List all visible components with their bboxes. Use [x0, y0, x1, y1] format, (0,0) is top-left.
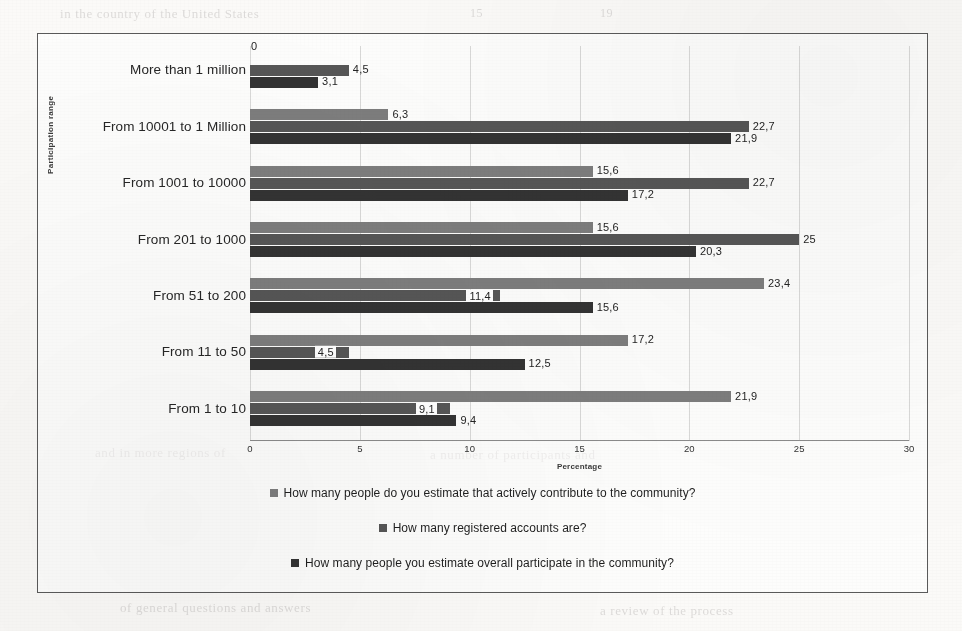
bar[interactable]	[250, 121, 749, 132]
background-ghost-text-1: 15	[470, 6, 483, 21]
bar-value-label: 4,5	[315, 346, 336, 358]
legend-label: How many people you estimate overall par…	[305, 556, 674, 570]
x-axis-ticks: 051015202530	[250, 443, 909, 459]
bar-row[interactable]: 4,5	[250, 65, 909, 76]
bar-value-label: 23,4	[768, 278, 790, 289]
bar[interactable]	[250, 133, 731, 144]
bar-row[interactable]: 12,5	[250, 359, 909, 370]
bar-row[interactable]: 25	[250, 234, 909, 245]
legend-item[interactable]: How many people you estimate overall par…	[38, 556, 927, 570]
background-ghost-text-6: a review of the process	[600, 603, 734, 619]
x-axis-tick-label: 20	[684, 443, 695, 454]
bar-row[interactable]: 9,4	[250, 415, 909, 426]
bar[interactable]	[250, 246, 696, 257]
category-label: From 11 to 50	[162, 344, 246, 359]
bar-value-label: 11,4	[466, 290, 492, 302]
legend-label: How many people do you estimate that act…	[284, 486, 696, 500]
category-axis-labels: More than 1 millionFrom 10001 to 1 Milli…	[98, 46, 246, 441]
background-ghost-text-5: of general questions and answers	[120, 600, 311, 616]
bar-row[interactable]: 6,3	[250, 109, 909, 120]
bar-row[interactable]: 3,1	[250, 77, 909, 88]
x-axis-tick-label: 10	[464, 443, 475, 454]
category-label: From 1001 to 10000	[123, 175, 246, 190]
gridline	[909, 46, 910, 441]
bar-group: 15,62520,3	[250, 222, 909, 258]
legend-label: How many registered accounts are?	[393, 521, 587, 535]
bar-group: 15,622,717,2	[250, 166, 909, 202]
category-label: More than 1 million	[130, 62, 246, 77]
bar[interactable]	[250, 335, 628, 346]
bar[interactable]	[250, 65, 349, 76]
legend-item[interactable]: How many people do you estimate that act…	[38, 486, 927, 500]
bar[interactable]	[250, 222, 593, 233]
bar[interactable]	[250, 290, 500, 301]
bar-row[interactable]: 0	[250, 53, 909, 64]
bar-group: 04,53,1	[250, 53, 909, 89]
bar-row[interactable]: 11,4	[250, 290, 909, 301]
bar-value-label: 22,7	[753, 121, 775, 132]
legend-swatch-icon	[291, 559, 299, 567]
category-label: From 201 to 1000	[138, 232, 246, 247]
bar-value-label: 20,3	[700, 246, 722, 257]
bar-value-label: 9,1	[416, 403, 437, 415]
bar[interactable]	[250, 234, 799, 245]
category-label: From 51 to 200	[153, 288, 246, 303]
bar-value-label: 15,6	[597, 165, 619, 176]
bar-value-label: 15,6	[597, 222, 619, 233]
bar-row[interactable]: 23,4	[250, 278, 909, 289]
bar-row[interactable]: 20,3	[250, 246, 909, 257]
bar-value-label: 4,5	[353, 64, 369, 75]
chart-container: Participation range More than 1 millionF…	[37, 33, 928, 593]
bar-row[interactable]: 17,2	[250, 190, 909, 201]
background-ghost-text-2: 19	[600, 6, 613, 21]
bar-row[interactable]: 15,6	[250, 222, 909, 233]
bar-value-label: 17,2	[632, 335, 654, 346]
bar-row[interactable]: 15,6	[250, 302, 909, 313]
x-axis-tick-label: 25	[794, 443, 805, 454]
bar-row[interactable]: 22,7	[250, 178, 909, 189]
bar-value-label: 21,9	[735, 391, 757, 402]
bar-row[interactable]: 17,2	[250, 335, 909, 346]
bar[interactable]	[250, 178, 749, 189]
bar-value-label: 9,4	[460, 415, 476, 426]
bar-group: 6,322,721,9	[250, 109, 909, 145]
background-ghost-text-0: in the country of the United States	[60, 6, 259, 22]
bar[interactable]	[250, 190, 628, 201]
bar-row[interactable]: 21,9	[250, 133, 909, 144]
legend-swatch-icon	[270, 489, 278, 497]
bar-value-label: 3,1	[322, 76, 338, 87]
x-axis-tick-label: 5	[357, 443, 362, 454]
bar[interactable]	[250, 391, 731, 402]
bar[interactable]	[250, 359, 525, 370]
chart-legend: How many people do you estimate that act…	[38, 486, 927, 591]
bar[interactable]	[250, 109, 388, 120]
bar-group: 23,411,415,6	[250, 278, 909, 314]
x-axis-tick-label: 30	[904, 443, 915, 454]
bar-row[interactable]: 9,1	[250, 403, 909, 414]
bar[interactable]	[250, 166, 593, 177]
bar-row[interactable]: 4,5	[250, 347, 909, 358]
y-axis-title: Participation range	[46, 96, 55, 174]
bar-row[interactable]: 15,6	[250, 166, 909, 177]
bar-value-label: 0	[251, 41, 257, 52]
bar-value-label: 6,3	[392, 109, 408, 120]
x-axis-title: Percentage	[250, 462, 909, 471]
bar-group: 17,24,512,5	[250, 335, 909, 371]
bar-group: 21,99,19,4	[250, 391, 909, 427]
bar-value-label: 12,5	[529, 359, 551, 370]
plot-area: 04,53,16,322,721,915,622,717,215,62520,3…	[250, 46, 909, 441]
legend-item[interactable]: How many registered accounts are?	[38, 521, 927, 535]
category-label: From 1 to 10	[168, 401, 246, 416]
bar[interactable]	[250, 77, 318, 88]
bar-row[interactable]: 22,7	[250, 121, 909, 132]
bar[interactable]	[250, 415, 456, 426]
bar-value-label: 21,9	[735, 133, 757, 144]
bar-value-label: 17,2	[632, 189, 654, 200]
bar-value-label: 22,7	[753, 177, 775, 188]
bar[interactable]	[250, 278, 764, 289]
legend-swatch-icon	[379, 524, 387, 532]
bar-row[interactable]: 21,9	[250, 391, 909, 402]
bar[interactable]	[250, 302, 593, 313]
bar-value-label: 15,6	[597, 302, 619, 313]
x-axis-tick-label: 15	[574, 443, 585, 454]
